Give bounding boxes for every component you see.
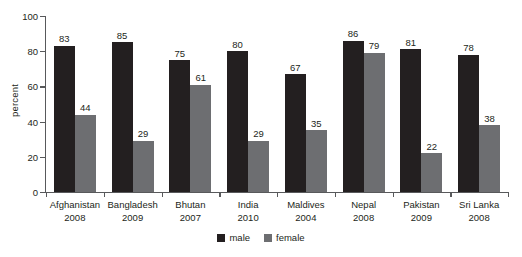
bar-female: 22 (421, 153, 442, 192)
legend-item-male[interactable]: male (217, 232, 250, 243)
bar-value-label: 29 (253, 129, 264, 139)
bar-male: 86 (343, 41, 364, 192)
x-axis-country-name: Pakistan (403, 199, 439, 210)
bar-male: 85 (112, 42, 133, 192)
x-axis-country-name: Bhutan (175, 199, 205, 210)
legend-label: female (276, 232, 305, 243)
plot-area: 0204060801008344852975618029673586798122… (46, 16, 508, 192)
bar-value-label: 79 (369, 41, 380, 51)
bar-female: 44 (75, 115, 96, 192)
bar-female: 79 (364, 53, 385, 192)
x-axis-tick-mark (393, 192, 394, 197)
bar-group: 8344 (54, 16, 96, 192)
y-axis-tick-mark (40, 157, 45, 158)
y-axis-label: percent (9, 71, 20, 131)
bar-male: 75 (169, 60, 190, 192)
x-axis-year: 2008 (335, 212, 393, 225)
x-axis-category-label: Bhutan2007 (162, 199, 220, 224)
x-axis-country-name: Maldives (287, 199, 325, 210)
x-axis-year: 2008 (450, 212, 508, 225)
y-axis-tick-mark (40, 192, 45, 193)
legend-swatch-female (264, 234, 272, 242)
x-axis-year: 2007 (162, 212, 220, 225)
bar-group: 7561 (169, 16, 211, 192)
x-axis-year: 2008 (46, 212, 104, 225)
x-axis-tick-mark (46, 192, 47, 197)
bar-value-label: 67 (290, 63, 301, 73)
x-axis-country-name: Sri Lanka (459, 199, 499, 210)
bar-female: 38 (479, 125, 500, 192)
x-axis-year: 2004 (277, 212, 335, 225)
bar-value-label: 85 (117, 31, 128, 41)
bar-male: 83 (54, 46, 75, 192)
y-axis-tick-label: 80 (27, 46, 38, 57)
bar-male: 78 (458, 55, 479, 192)
x-axis-country-name: India (238, 199, 259, 210)
x-axis-tick-mark (335, 192, 336, 197)
x-axis-category-label: India2010 (219, 199, 277, 224)
bar-group: 6735 (285, 16, 327, 192)
chart-legend: malefemale (0, 232, 522, 243)
bar-value-label: 29 (138, 129, 149, 139)
bar-value-label: 83 (59, 34, 70, 44)
x-axis-category-label: Afghanistan2008 (46, 199, 104, 224)
y-axis-tick-label: 40 (27, 116, 38, 127)
bar-chart: percent 02040608010083448529756180296735… (0, 0, 522, 257)
x-axis-category-label: Pakistan2009 (393, 199, 451, 224)
bar-group: 8679 (343, 16, 385, 192)
bar-value-label: 81 (406, 38, 417, 48)
x-axis-country-name: Afghanistan (50, 199, 100, 210)
legend-label: male (229, 232, 250, 243)
bar-value-label: 75 (175, 49, 186, 59)
bar-male: 80 (227, 51, 248, 192)
x-axis-category-label: Nepal2008 (335, 199, 393, 224)
x-axis-tick-mark (508, 192, 509, 197)
x-axis-category-label: Sri Lanka2008 (450, 199, 508, 224)
bar-female: 61 (190, 85, 211, 192)
bar-female: 29 (248, 141, 269, 192)
bar-value-label: 44 (80, 103, 91, 113)
x-axis-category-label: Bangladesh2009 (104, 199, 162, 224)
x-axis-category-label: Maldives2004 (277, 199, 335, 224)
bar-value-label: 35 (311, 119, 322, 129)
bar-group: 8529 (112, 16, 154, 192)
bar-group: 8029 (227, 16, 269, 192)
x-axis-tick-mark (104, 192, 105, 197)
bar-value-label: 61 (196, 73, 207, 83)
y-axis-tick-label: 20 (27, 151, 38, 162)
x-axis-year: 2010 (219, 212, 277, 225)
y-axis-tick-mark (40, 51, 45, 52)
bar-male: 67 (285, 74, 306, 192)
x-axis-tick-mark (277, 192, 278, 197)
y-axis-tick-mark (40, 16, 45, 17)
bar-value-label: 38 (484, 114, 495, 124)
bar-value-label: 78 (463, 43, 474, 53)
x-axis-country-name: Bangladesh (108, 199, 158, 210)
x-axis-year: 2009 (393, 212, 451, 225)
bar-group: 7838 (458, 16, 500, 192)
bar-value-label: 86 (348, 29, 359, 39)
y-axis-tick-mark (40, 86, 45, 87)
y-axis-tick-label: 0 (33, 187, 38, 198)
bar-group: 8122 (400, 16, 442, 192)
bar-value-label: 22 (427, 142, 438, 152)
x-axis-tick-mark (162, 192, 163, 197)
y-axis-tick-label: 100 (22, 11, 38, 22)
x-axis-tick-mark (219, 192, 220, 197)
y-axis-tick-label: 60 (27, 81, 38, 92)
bar-male: 81 (400, 49, 421, 192)
bar-female: 29 (133, 141, 154, 192)
x-axis-tick-mark (450, 192, 451, 197)
bar-value-label: 80 (232, 40, 243, 50)
x-axis-country-name: Nepal (351, 199, 376, 210)
bar-female: 35 (306, 130, 327, 192)
legend-swatch-male (217, 234, 225, 242)
x-axis-year: 2009 (104, 212, 162, 225)
y-axis-tick-mark (40, 122, 45, 123)
legend-item-female[interactable]: female (264, 232, 305, 243)
